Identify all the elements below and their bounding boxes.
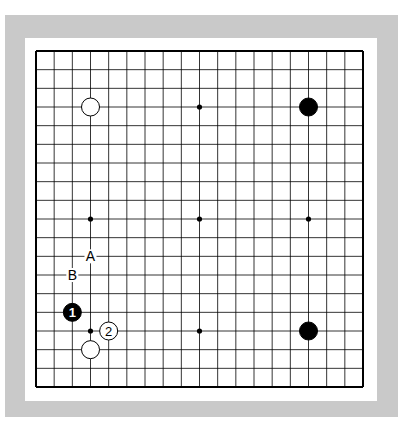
- board-label-b: B: [68, 267, 77, 283]
- star-point: [197, 104, 202, 109]
- star-point: [88, 216, 93, 221]
- black-stone: [300, 98, 318, 116]
- star-point: [197, 216, 202, 221]
- move-number: 1: [69, 305, 76, 320]
- black-stone: [300, 322, 318, 340]
- white-stone: [82, 341, 100, 359]
- star-point: [88, 328, 93, 333]
- white-stone: [82, 98, 100, 116]
- star-point: [306, 216, 311, 221]
- move-number: 2: [105, 324, 112, 339]
- star-point: [197, 328, 202, 333]
- go-board: AB12: [0, 0, 403, 424]
- board-label-a: A: [86, 248, 96, 264]
